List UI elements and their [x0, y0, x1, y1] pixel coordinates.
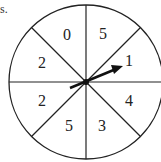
section-label: 1	[125, 52, 133, 69]
section-label: 2	[38, 92, 46, 109]
section-label: 0	[63, 26, 71, 43]
section-label: 3	[98, 117, 106, 134]
section-label: 5	[99, 25, 107, 42]
section-label: 4	[125, 92, 133, 109]
spinner-diagram: 0 5 1 4 3 5 2 2	[0, 0, 161, 162]
section-label: 5	[65, 117, 73, 134]
section-label: 2	[38, 54, 46, 71]
spinner-arrow-icon	[70, 65, 123, 88]
